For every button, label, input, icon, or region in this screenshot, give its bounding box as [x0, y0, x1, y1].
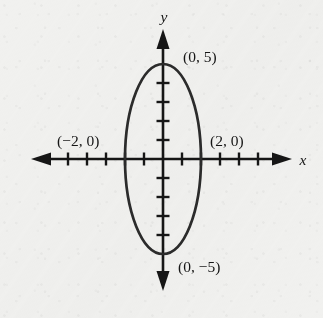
y-axis-down-arrow-icon — [157, 271, 170, 291]
x-axis — [31, 153, 292, 166]
point-label-bottom: (0, −5) — [178, 258, 220, 276]
y-axis-label: y — [159, 8, 168, 25]
x-axis-right-arrow-icon — [272, 153, 292, 166]
point-label-top: (0, 5) — [183, 48, 217, 66]
x-axis-label: x — [299, 151, 307, 168]
point-label-left: (−2, 0) — [57, 132, 99, 150]
y-axis-up-arrow-icon — [157, 29, 170, 49]
x-axis-left-arrow-icon — [31, 153, 51, 166]
ellipse-graph-figure: x y (0, 5) (0, −5) (−2, 0) (2, 0) — [0, 0, 323, 318]
point-label-right: (2, 0) — [210, 132, 244, 150]
